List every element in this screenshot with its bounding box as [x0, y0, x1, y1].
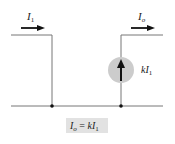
equation-box: Io = kI1 [66, 118, 108, 133]
node-right [119, 104, 123, 108]
input-current-label: I1 [26, 10, 35, 24]
node-left [50, 104, 54, 108]
current-source-icon [108, 57, 134, 83]
output-current-label: Io [137, 10, 146, 24]
circuit-diagram: I1 Io kI1 Io = kI1 [0, 0, 175, 144]
output-current-arrow-icon [131, 25, 155, 31]
input-wire [11, 35, 52, 106]
source-label: kI1 [141, 64, 153, 77]
input-current-arrow-icon [21, 25, 45, 31]
